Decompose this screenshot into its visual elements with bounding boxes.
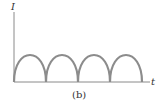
x-axis-label: t [151, 76, 156, 87]
rectified-waveform-diagram: I t (b) [0, 0, 159, 104]
figure-caption: (b) [72, 89, 86, 100]
y-axis-label: I [10, 1, 16, 12]
waveform-curve [14, 55, 142, 82]
